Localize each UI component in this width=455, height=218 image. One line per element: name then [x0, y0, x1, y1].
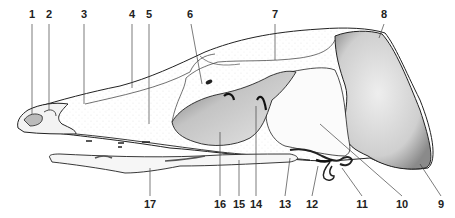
label-1: 1	[29, 9, 35, 20]
label-15: 15	[233, 199, 245, 210]
label-12: 12	[306, 199, 318, 210]
label-16: 16	[214, 199, 226, 210]
label-14: 14	[250, 199, 262, 210]
label-11: 11	[356, 199, 368, 210]
label-10: 10	[396, 199, 408, 210]
skull-diagram: 1 2 3 4 5 6 7 8 9 10 11 12 13 14 15 16 1…	[0, 0, 455, 218]
label-7: 7	[272, 9, 278, 20]
label-9: 9	[438, 199, 444, 210]
label-17: 17	[144, 199, 156, 210]
label-5: 5	[146, 9, 152, 20]
label-2: 2	[46, 9, 52, 20]
label-4: 4	[129, 9, 135, 20]
label-13: 13	[279, 199, 291, 210]
label-8: 8	[381, 9, 387, 20]
label-6: 6	[187, 9, 193, 20]
leader-lines	[0, 0, 455, 218]
label-3: 3	[81, 9, 87, 20]
